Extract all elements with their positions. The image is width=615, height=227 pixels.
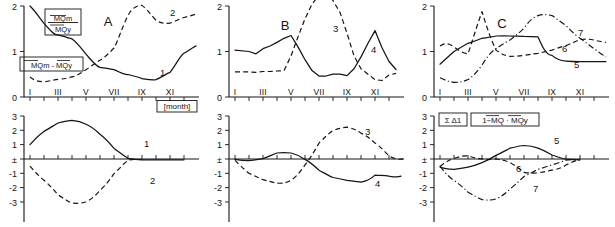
panel-d-curve-1 bbox=[30, 120, 184, 159]
panel-a-ratio-numerator: MQm bbox=[54, 14, 72, 23]
panel-d-curve-2 bbox=[30, 159, 142, 203]
panel-d-ytick-1: 1 bbox=[12, 140, 17, 150]
panel-d: 3 2 1 ± -1 -2 -3 bbox=[0, 112, 205, 227]
panel-a-xtick-i: I bbox=[29, 87, 32, 97]
panel-a-xtick-v: V bbox=[83, 87, 89, 97]
panel-f-ytick-2: 2 bbox=[422, 126, 427, 136]
panel-a-y-ticks: 2 1 0 bbox=[12, 2, 24, 103]
panel-a-ytick-2: 2 bbox=[12, 2, 17, 12]
panel-f-curve-label-7: 7 bbox=[533, 183, 538, 194]
panel-b-curve-label-4: 4 bbox=[371, 44, 376, 55]
panel-e-ytick-neg2: -2 bbox=[214, 183, 222, 193]
panel-d-ytick-neg2: -2 bbox=[9, 183, 17, 193]
panel-c-xtick-vii: VII bbox=[519, 87, 530, 97]
panel-a: 2 1 0 I III V bbox=[0, 0, 205, 112]
panel-e-y-ticks: 3 2 1 ± -1 -2 -3 bbox=[214, 112, 229, 208]
panel-b-xtick-xi: XI bbox=[371, 87, 379, 97]
panel-d-ytick-3: 3 bbox=[12, 112, 17, 122]
panel-a-ytick-0: 0 bbox=[12, 93, 17, 103]
panel-e-ytick-zero: ± bbox=[217, 155, 222, 165]
panel-e-ytick-1: 1 bbox=[217, 140, 222, 150]
panel-b-xtick-iii: III bbox=[259, 87, 267, 97]
panel-f-formula: Σ Δ1 1÷MQ · MQy bbox=[439, 113, 539, 126]
panel-f: 3 2 1 ± -1 -2 -3 bbox=[410, 112, 615, 227]
panel-b-xtick-i: I bbox=[234, 87, 237, 97]
panel-c-x-ticks bbox=[440, 97, 594, 101]
panel-b-letter: B bbox=[281, 18, 290, 33]
panel-c: 2 1 0 I III V V bbox=[410, 0, 615, 112]
panel-a-difference-label: MQm - MQy bbox=[31, 61, 72, 70]
panel-c-xtick-i: I bbox=[439, 87, 442, 97]
panel-b-ytick-2: 2 bbox=[217, 2, 222, 12]
panel-a-xtick-iii: III bbox=[54, 87, 62, 97]
panel-c-xtick-iii: III bbox=[464, 87, 472, 97]
panel-f-ytick-1: 1 bbox=[422, 140, 427, 150]
panel-b-xtick-v: V bbox=[288, 87, 294, 97]
panel-e-ytick-3: 3 bbox=[217, 112, 222, 122]
panel-d-ytick-neg3: -3 bbox=[9, 198, 17, 208]
panel-c-xtick-ix: IX bbox=[548, 87, 557, 97]
panel-c-curve-label-7: 7 bbox=[578, 27, 583, 38]
panel-b-x-ticks bbox=[235, 97, 389, 101]
panel-e-ytick-2: 2 bbox=[217, 126, 222, 136]
panel-b-ytick-0: 0 bbox=[217, 93, 222, 103]
panel-a-x-tick-labels: I III V VII IX XI bbox=[29, 87, 175, 97]
panel-a-xtick-xi: XI bbox=[166, 87, 174, 97]
panel-c-ytick-0: 0 bbox=[422, 93, 427, 103]
panel-c-y-ticks: 2 1 0 bbox=[422, 2, 434, 103]
panel-f-ytick-neg3: -3 bbox=[419, 198, 427, 208]
panel-d-y-ticks: 3 2 1 ± -1 -2 -3 bbox=[9, 112, 24, 208]
panel-e-ytick-neg1: -1 bbox=[214, 169, 222, 179]
panel-c-xtick-v: V bbox=[493, 87, 499, 97]
panel-a-letter: A bbox=[104, 14, 113, 29]
panel-b-xtick-vii: VII bbox=[314, 87, 325, 97]
panel-c-letter: C bbox=[497, 16, 506, 31]
panel-a-curve-label-1: 1 bbox=[160, 67, 165, 78]
panel-a-difference-box: MQm - MQy bbox=[20, 57, 83, 71]
panel-c-ytick-2: 2 bbox=[422, 2, 427, 12]
panel-e-ytick-neg3: -3 bbox=[214, 198, 222, 208]
panel-b-y-ticks: 2 1 0 bbox=[217, 2, 229, 103]
panel-f-ytick-neg1: -1 bbox=[419, 169, 427, 179]
panel-b: 2 1 0 I III V V bbox=[205, 0, 410, 112]
panel-e-x-ticks bbox=[235, 155, 389, 159]
panel-f-curve-7 bbox=[440, 160, 580, 200]
panel-f-formula-product: 1÷MQ · MQy bbox=[482, 116, 528, 125]
panel-f-curve-label-5: 5 bbox=[554, 135, 559, 146]
panel-c-curve-label-5: 5 bbox=[574, 59, 579, 70]
panel-f-formula-sum: Σ Δ1 bbox=[445, 116, 462, 125]
panel-f-curve-label-6: 6 bbox=[516, 163, 521, 174]
panel-a-ytick-1: 1 bbox=[12, 47, 17, 57]
panel-c-curve-7 bbox=[440, 15, 606, 83]
panel-c-curve-5 bbox=[440, 36, 606, 64]
panel-f-ytick-zero: ± bbox=[422, 155, 427, 165]
panel-e: 3 2 1 ± -1 -2 -3 bbox=[205, 112, 410, 227]
panel-b-curve-label-3: 3 bbox=[333, 23, 338, 34]
panel-a-month-unit: [month] bbox=[157, 101, 197, 113]
panel-c-xtick-xi: XI bbox=[576, 87, 584, 97]
panel-e-curve-label-4: 4 bbox=[375, 178, 380, 189]
panel-f-ytick-neg2: -2 bbox=[419, 183, 427, 193]
panel-f-y-ticks: 3 2 1 ± -1 -2 -3 bbox=[419, 112, 434, 208]
panel-c-curve-label-6: 6 bbox=[562, 43, 567, 54]
panel-d-curve-label-2: 2 bbox=[150, 175, 155, 186]
panel-c-x-tick-labels: I III V VII IX XI bbox=[439, 87, 585, 97]
figure-root: 2 1 0 I III V bbox=[0, 0, 615, 227]
panel-d-curve-label-1: 1 bbox=[144, 138, 149, 149]
panel-b-x-tick-labels: I III V VII IX XI bbox=[234, 87, 380, 97]
panel-b-xtick-ix: IX bbox=[343, 87, 352, 97]
panel-a-xtick-vii: VII bbox=[109, 87, 120, 97]
panel-e-curve-label-3: 3 bbox=[365, 126, 370, 137]
panel-a-xtick-ix: IX bbox=[138, 87, 147, 97]
panel-b-curve-3 bbox=[235, 0, 396, 80]
panel-a-month-label: [month] bbox=[164, 102, 191, 111]
panel-a-curve-label-2: 2 bbox=[170, 7, 175, 18]
panel-f-ytick-3: 3 bbox=[422, 112, 427, 122]
panel-b-ytick-1: 1 bbox=[217, 47, 222, 57]
panel-d-ytick-neg1: -1 bbox=[9, 169, 17, 179]
panel-d-x-ticks bbox=[30, 155, 184, 159]
panel-a-ratio-denominator: MQy bbox=[55, 25, 71, 34]
panel-d-ytick-zero: ± bbox=[12, 155, 17, 165]
panel-c-ytick-1: 1 bbox=[422, 47, 427, 57]
panel-d-ytick-2: 2 bbox=[12, 126, 17, 136]
